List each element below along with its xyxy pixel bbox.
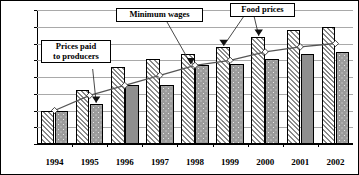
y-tick-mark xyxy=(34,144,37,145)
x-axis-tick xyxy=(318,143,319,147)
bar-prices-paid-to-producers xyxy=(230,64,244,144)
bar-food-prices xyxy=(146,59,160,144)
x-tick-label: 1997 xyxy=(142,157,177,167)
x-axis-tick xyxy=(107,143,108,147)
x-tick-label: 1994 xyxy=(37,157,72,167)
y-tick-mark xyxy=(34,27,37,28)
x-tick-label: 2002 xyxy=(318,157,353,167)
bar-food-prices xyxy=(41,111,55,145)
x-tick-label: 2000 xyxy=(248,157,283,167)
y-tick-mark xyxy=(34,60,37,61)
x-axis-tick xyxy=(283,143,284,147)
bar-food-prices xyxy=(251,37,265,144)
callout-food-prices: Food prices xyxy=(230,3,295,17)
x-tick-label: 1998 xyxy=(177,157,212,167)
x-axis-tick xyxy=(142,143,143,147)
gridline xyxy=(37,27,353,28)
bar-food-prices xyxy=(181,54,195,144)
x-axis-tick xyxy=(177,143,178,147)
callout-minimum-wages: Minimum wages xyxy=(116,8,203,22)
bar-prices-paid-to-producers xyxy=(301,54,315,144)
gridline xyxy=(37,144,353,145)
y-tick-mark xyxy=(34,77,37,78)
x-tick-label: 1999 xyxy=(213,157,248,167)
bar-prices-paid-to-producers xyxy=(55,111,69,145)
x-tick-label: 1995 xyxy=(72,157,107,167)
bar-food-prices xyxy=(76,90,90,144)
x-axis-tick xyxy=(248,143,249,147)
bar-prices-paid-to-producers xyxy=(195,65,209,144)
y-tick-mark xyxy=(34,10,37,11)
plot-area: 050100150200250300350400 199419951996199… xyxy=(37,10,353,144)
x-tick-label: 1996 xyxy=(107,157,142,167)
x-axis-tick xyxy=(72,143,73,147)
y-tick-mark xyxy=(34,111,37,112)
bar-prices-paid-to-producers xyxy=(90,104,104,144)
bar-food-prices xyxy=(322,27,336,144)
bar-prices-paid-to-producers xyxy=(125,85,139,144)
x-tick-label: 2001 xyxy=(283,157,318,167)
bar-food-prices xyxy=(287,30,301,144)
y-tick-mark xyxy=(34,44,37,45)
bar-prices-paid-to-producers xyxy=(160,85,174,144)
bar-prices-paid-to-producers xyxy=(265,59,279,144)
chart-container: 050100150200250300350400 199419951996199… xyxy=(0,0,359,175)
y-tick-mark xyxy=(34,94,37,95)
callout-prices-paid: Prices paid to producers xyxy=(41,40,111,63)
bar-prices-paid-to-producers xyxy=(336,52,350,144)
y-tick-mark xyxy=(34,127,37,128)
x-axis-tick xyxy=(213,143,214,147)
bar-food-prices xyxy=(216,47,230,144)
bar-food-prices xyxy=(111,67,125,144)
